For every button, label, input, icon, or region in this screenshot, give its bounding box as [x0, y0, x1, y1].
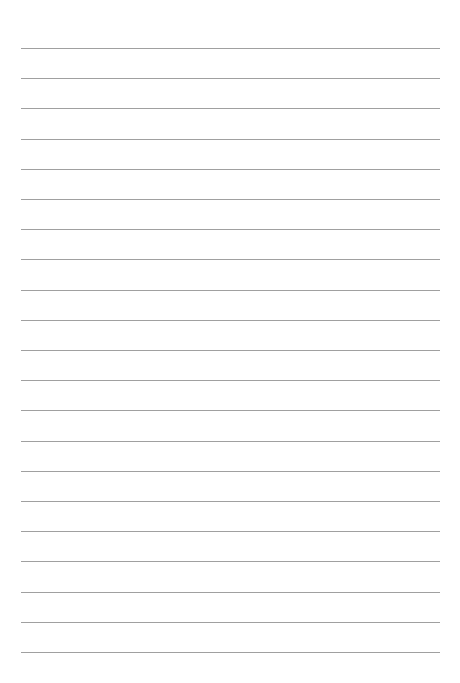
lined-paper-page	[0, 0, 460, 683]
ruled-line	[21, 471, 440, 472]
ruled-line	[21, 501, 440, 502]
ruled-line	[21, 290, 440, 291]
ruled-line	[21, 350, 440, 351]
ruled-line	[21, 48, 440, 49]
ruled-line	[21, 622, 440, 623]
ruled-line	[21, 561, 440, 562]
ruled-line	[21, 410, 440, 411]
ruled-line	[21, 592, 440, 593]
ruled-line	[21, 169, 440, 170]
ruled-line	[21, 108, 440, 109]
ruled-line	[21, 320, 440, 321]
ruled-line	[21, 139, 440, 140]
ruled-line	[21, 259, 440, 260]
ruled-line	[21, 531, 440, 532]
ruled-line	[21, 441, 440, 442]
ruled-line	[21, 78, 440, 79]
ruled-line	[21, 380, 440, 381]
ruled-line	[21, 199, 440, 200]
ruled-line	[21, 652, 440, 653]
ruled-line	[21, 229, 440, 230]
